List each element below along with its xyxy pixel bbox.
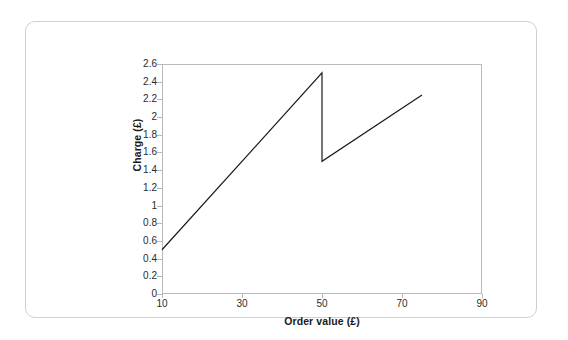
x-tick-label: 30 xyxy=(222,298,262,309)
y-tick-label: 2.4 xyxy=(123,77,157,87)
x-tick-label: 70 xyxy=(382,298,422,309)
y-tick-mark xyxy=(157,135,162,136)
chart-line-series xyxy=(162,64,482,294)
y-tick-mark xyxy=(157,117,162,118)
y-tick-mark xyxy=(157,276,162,277)
y-tick-mark xyxy=(157,206,162,207)
y-tick-label: 0.2 xyxy=(123,271,157,281)
y-tick-label: 0.4 xyxy=(123,254,157,264)
figure-card: 00.20.40.60.811.21.41.61.822.22.42.6 103… xyxy=(25,21,537,318)
y-tick-mark xyxy=(157,82,162,83)
x-tick-label: 10 xyxy=(142,298,182,309)
x-axis-title: Order value (£) xyxy=(162,315,482,327)
x-tick-mark xyxy=(402,294,403,298)
y-tick-mark xyxy=(157,259,162,260)
y-axis-title: Charge (£) xyxy=(131,95,143,195)
x-tick-mark xyxy=(162,294,163,298)
y-tick-mark xyxy=(157,64,162,65)
y-tick-label: 1 xyxy=(123,201,157,211)
y-tick-label: 2.6 xyxy=(123,59,157,69)
charge-line-path xyxy=(162,73,422,250)
y-tick-mark xyxy=(157,152,162,153)
y-tick-mark xyxy=(157,223,162,224)
y-tick-label: 0.6 xyxy=(123,236,157,246)
x-tick-mark xyxy=(242,294,243,298)
x-tick-label: 50 xyxy=(302,298,342,309)
y-tick-mark xyxy=(157,170,162,171)
x-tick-mark xyxy=(482,294,483,298)
y-tick-mark xyxy=(157,241,162,242)
x-axis-tick-labels: 1030507090 xyxy=(162,298,482,314)
y-tick-mark xyxy=(157,188,162,189)
y-tick-label: 0.8 xyxy=(123,218,157,228)
x-tick-label: 90 xyxy=(462,298,502,309)
y-tick-mark xyxy=(157,99,162,100)
x-tick-mark xyxy=(322,294,323,298)
